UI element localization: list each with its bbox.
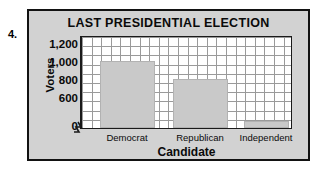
x-tick-label-republican: Republican: [163, 132, 237, 143]
figure: 4. LAST PRESIDENTIAL ELECTION 1,200 1,00…: [0, 0, 318, 172]
question-number: 4.: [8, 28, 17, 40]
bars-layer: [82, 37, 291, 128]
y-tick-label-800: 800: [59, 74, 78, 86]
zigzag-break-icon: [73, 119, 87, 133]
bar-independent: [244, 121, 289, 128]
y-tick-label-600: 600: [59, 92, 78, 104]
x-axis-tick-labels: Democrat Republican Independent: [81, 132, 292, 146]
plot-area: [81, 36, 292, 129]
y-axis-title: Voters: [44, 45, 56, 105]
chart-panel: LAST PRESIDENTIAL ELECTION 1,200 1,000 8…: [27, 9, 310, 161]
bar-republican: [173, 79, 228, 128]
x-tick-label-independent: Independent: [229, 132, 303, 143]
y-axis-spine: [80, 36, 82, 129]
bar-democrat: [100, 61, 155, 128]
x-tick-label-democrat: Democrat: [90, 132, 164, 143]
x-axis-title: Candidate: [81, 145, 292, 159]
